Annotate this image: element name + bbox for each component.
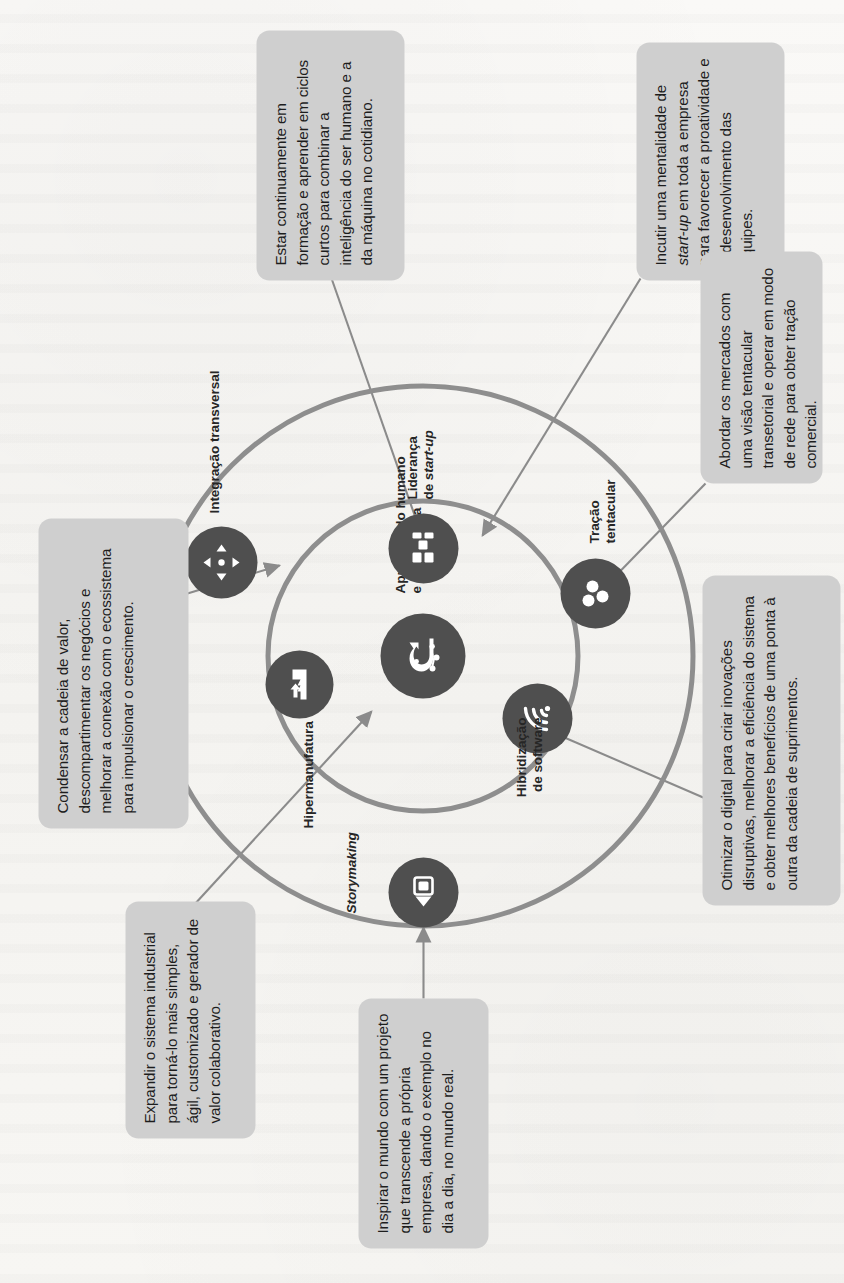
diagram-figure: Aprendizado humano e de máquina Storymak… <box>0 0 844 1283</box>
callout-lideranca[interactable]: Incutir uma mentalidade de start-up em t… <box>636 42 784 280</box>
callout-aprendizado[interactable]: Estar continuamente em formação e aprend… <box>256 30 404 280</box>
center-node-aprendizado[interactable] <box>380 613 465 698</box>
node-hipermanufatura-label: Hipermanufatura <box>300 638 316 828</box>
node-lideranca[interactable] <box>388 513 458 583</box>
node-hibridizacao-label: Hibridização de software <box>513 717 545 887</box>
node-integracao-label: Integração transversal <box>206 313 222 513</box>
callout-integracao[interactable]: Condensar a cadeia de valor, descomparti… <box>38 518 188 828</box>
three-nodes-icon <box>575 573 615 613</box>
node-storymaking[interactable] <box>388 857 458 927</box>
four-arrows-expand-icon <box>200 541 242 583</box>
callout-hipermanufatura[interactable]: Expandir o sistema industrial para torná… <box>125 901 255 1138</box>
node-hipermanufatura[interactable] <box>265 650 333 718</box>
node-lideranca-label: Liderança de start-up <box>404 339 436 499</box>
callout-tracao[interactable]: Abordar os mercados com uma visão tentac… <box>700 251 822 483</box>
node-integracao[interactable] <box>185 526 257 598</box>
projector-screen-icon <box>403 872 443 912</box>
ai-brain-circuit-icon <box>397 630 449 682</box>
node-storymaking-label: Storymaking <box>343 753 359 913</box>
org-blocks-icon <box>403 528 443 568</box>
node-tracao[interactable] <box>560 558 630 628</box>
callout-hibridizacao[interactable]: Otimizar o digital para criar inovações … <box>702 575 840 905</box>
node-tracao-label: Tração tentacular <box>586 393 618 543</box>
callout-storymaking[interactable]: Inspirar o mundo com um projeto que tran… <box>358 998 488 1248</box>
